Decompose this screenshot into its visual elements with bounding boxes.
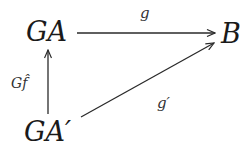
label-gprime: g′ bbox=[157, 94, 170, 112]
node-GA-prime: GA′ bbox=[24, 116, 71, 147]
label-g: g bbox=[140, 4, 150, 22]
arrow-gprime bbox=[81, 43, 214, 117]
node-GA: GA bbox=[26, 16, 67, 47]
commutative-diagram: GA B GA′ g Gf̂ g′ bbox=[0, 0, 252, 153]
label-Gfhat: Gf̂ bbox=[11, 75, 27, 91]
node-B: B bbox=[221, 18, 241, 49]
